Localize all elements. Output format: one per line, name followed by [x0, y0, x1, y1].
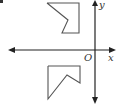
origin-label: O	[84, 52, 92, 63]
x-axis	[8, 47, 116, 53]
cropped-label-fragment	[0, 0, 3, 3]
y-axis	[92, 0, 98, 104]
y-axis-label: y	[98, 0, 105, 10]
coordinate-diagram: y O x	[0, 0, 120, 106]
y-axis-down-arrow-icon	[92, 97, 98, 104]
x-axis-left-arrow-icon	[8, 47, 15, 53]
upper-shape	[47, 3, 79, 33]
x-axis-label: x	[108, 52, 114, 63]
y-axis-up-arrow-icon	[92, 0, 98, 6]
lower-shape	[48, 66, 80, 99]
